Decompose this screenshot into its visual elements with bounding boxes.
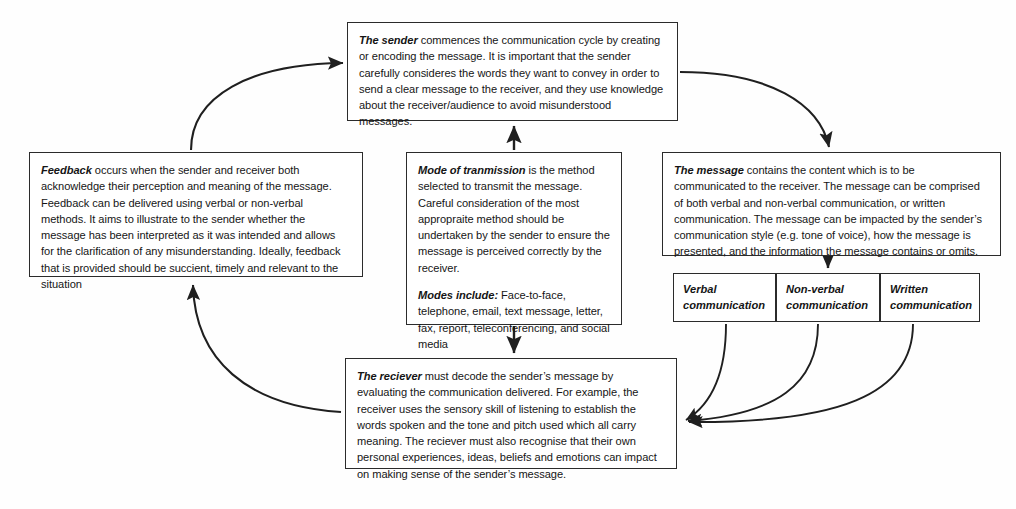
node-message-lead: The message — [674, 164, 744, 176]
node-mode-of-transmission: Mode of tranmission is the method select… — [406, 152, 622, 325]
node-sender: The sender commences the communication c… — [347, 22, 678, 121]
subnode-verbal-line2: communication — [683, 298, 767, 314]
node-receiver: The reciever must decode the sender’s me… — [345, 358, 677, 469]
subnode-verbal-communication: Verbal communication — [673, 273, 776, 322]
subnode-written-line2: communication — [890, 298, 971, 314]
subnode-written-line1: Written — [890, 282, 971, 298]
node-mode-body: is the method selected to transmit the m… — [418, 164, 610, 274]
connector-feedback-to-sender — [191, 63, 343, 150]
node-feedback: Feedback occurs when the sender and rece… — [29, 152, 363, 277]
subnode-written-communication: Written communication — [880, 273, 980, 322]
connector-nonverbal-to-receiver — [688, 324, 818, 421]
connector-written-to-receiver — [689, 324, 913, 422]
subnode-nonverbal-communication: Non-verbal communication — [776, 273, 880, 322]
connector-receiver-to-feedback — [193, 285, 341, 412]
node-feedback-lead: Feedback — [41, 164, 92, 176]
subnode-nonverbal-line1: Non-verbal — [786, 282, 871, 298]
node-message-body: contains the content which is to be comm… — [674, 164, 982, 257]
node-mode-modes-lead: Modes include: — [418, 289, 498, 301]
subnode-nonverbal-line2: communication — [786, 298, 871, 314]
node-receiver-lead: The reciever — [357, 370, 422, 382]
node-message: The message contains the content which i… — [662, 152, 1001, 256]
connector-sender-to-message — [680, 72, 829, 147]
node-message-text: The message contains the content which i… — [674, 162, 989, 260]
node-sender-body: commences the communication cycle by cre… — [359, 34, 663, 127]
node-sender-lead: The sender — [359, 34, 418, 46]
node-feedback-body: occurs when the sender and receiver both… — [41, 164, 340, 290]
node-mode-text: Mode of tranmission is the method select… — [418, 162, 610, 276]
node-sender-text: The sender commences the communication c… — [359, 32, 666, 130]
connector-verbal-to-receiver — [686, 324, 726, 420]
diagram-canvas: The sender commences the communication c… — [0, 0, 1016, 509]
node-receiver-text: The reciever must decode the sender’s me… — [357, 368, 665, 482]
node-mode-modes-text: Modes include: Face-to-face, telephone, … — [418, 287, 610, 352]
node-mode-lead: Mode of tranmission — [418, 164, 526, 176]
subnode-verbal-line1: Verbal — [683, 282, 767, 298]
node-receiver-body: must decode the sender’s message by eval… — [357, 370, 657, 480]
node-feedback-text: Feedback occurs when the sender and rece… — [41, 162, 351, 292]
